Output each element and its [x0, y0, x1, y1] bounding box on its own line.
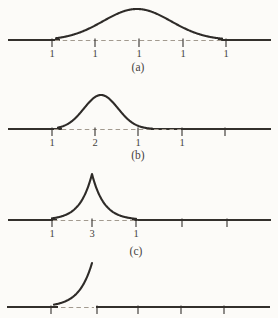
tick-label: 1 — [179, 137, 184, 148]
tick-label: 1 — [180, 48, 185, 59]
panel-caption-b: (b) — [131, 149, 145, 162]
curve-a — [56, 9, 222, 39]
panel-caption-c: (c) — [130, 245, 143, 258]
lineshape-figure: 11111(a)1211(b)131(c) — [0, 0, 278, 318]
panel-caption-a: (a) — [132, 61, 145, 74]
tick-label: 2 — [92, 137, 97, 148]
panel-b: 1211(b) — [8, 95, 271, 162]
panel-a: 11111(a) — [8, 9, 271, 74]
tick-label: 1 — [223, 48, 228, 59]
tick-label: 1 — [49, 137, 54, 148]
curve-b — [58, 95, 152, 129]
tick-label: 1 — [135, 137, 140, 148]
tick-label: 1 — [133, 228, 138, 239]
tick-label: 1 — [136, 48, 141, 59]
panel-d — [7, 263, 270, 314]
panel-c: 131(c) — [8, 174, 271, 258]
lineshape-figure-canvas: 11111(a)1211(b)131(c) — [0, 0, 278, 318]
tick-label: 1 — [92, 48, 97, 59]
curve-d — [54, 263, 92, 305]
curve-c — [52, 174, 136, 219]
tick-label: 1 — [49, 228, 54, 239]
tick-label: 3 — [89, 228, 94, 239]
tick-label: 1 — [49, 48, 54, 59]
